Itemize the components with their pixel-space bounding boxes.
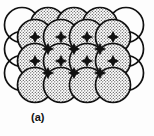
figure-panel: (a) (0, 0, 154, 136)
figure-caption: (a) (31, 110, 44, 124)
lattice-group (5, 8, 144, 103)
crystal-lattice-diagram (0, 0, 154, 110)
